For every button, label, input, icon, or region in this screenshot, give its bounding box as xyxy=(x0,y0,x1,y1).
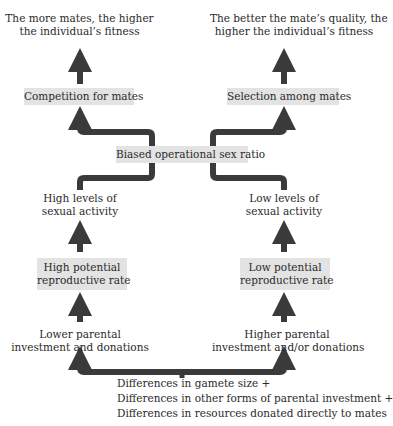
high-activity-line2: sexual activity xyxy=(20,205,140,218)
outcome-more-mates: The more mates, the higher the individua… xyxy=(2,12,157,38)
outcome-better-quality: The better the mate’s quality, the highe… xyxy=(210,12,378,38)
higher-investment-line2: investment and/or donations xyxy=(212,341,362,354)
root-cause-gamete-size: Differences in gamete size + xyxy=(117,376,393,391)
high-activity-line1: High levels of xyxy=(20,192,140,205)
biased-sex-ratio-box: Biased operational sex ratio xyxy=(116,146,248,163)
high-rate-line1: High potential xyxy=(37,261,127,274)
selection-box: Selection among mates xyxy=(227,88,339,105)
connector-high-activity-to-center xyxy=(80,166,152,190)
bracket-root-causes xyxy=(80,364,284,372)
low-activity-line2: sexual activity xyxy=(224,205,344,218)
high-activity-text: High levels of sexual activity xyxy=(20,192,140,218)
root-cause-resources-donated: Differences in resources donated directl… xyxy=(117,406,393,421)
high-rate-box: High potential reproductive rate xyxy=(37,258,127,290)
low-activity-text: Low levels of sexual activity xyxy=(224,192,344,218)
outcome-better-quality-line1: The better the mate’s quality, the xyxy=(210,12,378,25)
higher-investment-text: Higher parental investment and/or donati… xyxy=(212,328,362,354)
competition-box: Competition for mates xyxy=(24,88,134,105)
higher-investment-line1: Higher parental xyxy=(212,328,362,341)
root-causes-text: Differences in gamete size + Differences… xyxy=(117,376,393,421)
lower-investment-line2: investment and donations xyxy=(10,341,150,354)
connector-low-activity-to-center xyxy=(213,166,284,190)
outcome-more-mates-line1: The more mates, the higher xyxy=(2,12,157,25)
low-rate-box: Low potential reproductive rate xyxy=(240,258,330,290)
outcome-better-quality-line2: higher the individual’s fitness xyxy=(210,25,378,38)
low-rate-line1: Low potential xyxy=(240,261,330,274)
outcome-more-mates-line2: the individual’s fitness xyxy=(2,25,157,38)
low-rate-line2: reproductive rate xyxy=(240,274,330,287)
high-rate-line2: reproductive rate xyxy=(37,274,127,287)
low-activity-line1: Low levels of xyxy=(224,192,344,205)
lower-investment-line1: Lower parental xyxy=(10,328,150,341)
lower-investment-text: Lower parental investment and donations xyxy=(10,328,150,354)
root-cause-parental-investment: Differences in other forms of parental i… xyxy=(117,391,393,406)
